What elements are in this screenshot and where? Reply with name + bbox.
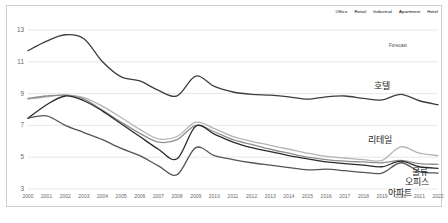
chart-legend: Office Retail Industrial Apartment Hotel xyxy=(335,9,438,15)
x-tick-2014: 2014 xyxy=(280,193,298,199)
x-tick-2002: 2002 xyxy=(56,193,74,199)
gridlines xyxy=(28,30,438,189)
x-tick-2007: 2007 xyxy=(149,193,167,199)
y-tick-9: 9 xyxy=(8,90,24,97)
y-tick-7: 7 xyxy=(8,121,24,128)
x-tick-2008: 2008 xyxy=(168,193,186,199)
y-tick-13: 13 xyxy=(8,26,24,33)
x-tick-2012: 2012 xyxy=(243,193,261,199)
x-tick-2017: 2017 xyxy=(336,193,354,199)
series-label-retail: 리테일 xyxy=(368,133,392,146)
y-tick-11: 11 xyxy=(8,58,24,65)
series-paths xyxy=(28,35,438,176)
legend-item-industrial[interactable]: Industrial xyxy=(373,9,392,15)
x-tick-2010: 2010 xyxy=(205,193,223,199)
x-tick-2013: 2013 xyxy=(261,193,279,199)
x-tick-2016: 2016 xyxy=(317,193,335,199)
x-tick-2009: 2009 xyxy=(187,193,205,199)
legend-item-retail[interactable]: Retail xyxy=(354,9,366,15)
series-line-retail xyxy=(28,95,438,161)
x-tick-2018: 2018 xyxy=(354,193,372,199)
legend-item-apartment[interactable]: Apartment xyxy=(399,9,420,15)
series-label-apartment: 아파트 xyxy=(388,186,412,199)
x-tick-2011: 2011 xyxy=(224,193,242,199)
x-tick-2004: 2004 xyxy=(94,193,112,199)
x-tick-2003: 2003 xyxy=(75,193,93,199)
series-line-hotel xyxy=(28,35,438,105)
y-tick-3: 3 xyxy=(8,185,24,192)
x-tick-2021: 2021 xyxy=(410,193,428,199)
x-tick-2001: 2001 xyxy=(38,193,56,199)
series-label-hotel: 호텔 xyxy=(374,79,390,92)
legend-item-office[interactable]: Office xyxy=(335,9,347,15)
forecast-annotation: Forecast xyxy=(389,43,407,48)
x-tick-2005: 2005 xyxy=(112,193,130,199)
x-tick-2022: 2022 xyxy=(429,193,447,199)
cap-rate-line-chart: Office Retail Industrial Apartment Hotel… xyxy=(0,0,448,223)
series-line-industrial xyxy=(28,95,438,164)
legend-item-hotel[interactable]: Hotel xyxy=(427,9,438,15)
x-tick-2015: 2015 xyxy=(299,193,317,199)
plot-area xyxy=(0,0,448,223)
y-tick-5: 5 xyxy=(8,153,24,160)
x-tick-2006: 2006 xyxy=(131,193,149,199)
x-tick-2000: 2000 xyxy=(19,193,37,199)
